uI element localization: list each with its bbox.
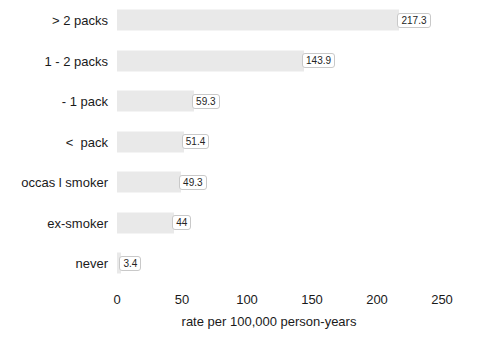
bar-track: 51.4 (117, 131, 480, 152)
bar-value-label: 3.4 (119, 256, 141, 271)
bar-row: < pack 51.4 (0, 122, 480, 163)
bar-value-label: 51.4 (182, 134, 209, 149)
bar-value-label: 44 (172, 215, 191, 230)
category-label: never (0, 256, 108, 271)
bar-row: occas l smoker 49.3 (0, 162, 480, 203)
x-axis-title-text: rate per 100,000 person-years (182, 314, 357, 329)
x-tick-label: 0 (113, 292, 120, 307)
bar-track: 217.3 (117, 10, 480, 31)
x-axis-title: rate per 100,000 person-years (0, 314, 480, 329)
bar-value-label: 217.3 (397, 13, 430, 28)
bar-value-label: 49.3 (179, 175, 206, 190)
category-label: > 2 packs (0, 13, 108, 28)
bar-row: > 2 packs 217.3 (0, 0, 480, 41)
category-label: - 1 pack (0, 94, 108, 109)
bar-value-label: 59.3 (192, 94, 219, 109)
category-label: occas l smoker (0, 175, 108, 190)
category-label: < pack (0, 134, 108, 149)
bar-track: 44 (117, 212, 480, 233)
plot-area: > 2 packs 217.3 1 - 2 packs 143.9 - 1 pa… (0, 0, 480, 290)
bar (117, 91, 194, 112)
x-tick-label: 150 (301, 292, 323, 307)
bar (117, 172, 181, 193)
bar-row: - 1 pack 59.3 (0, 81, 480, 122)
bar-chart: > 2 packs 217.3 1 - 2 packs 143.9 - 1 pa… (0, 0, 480, 342)
bar-track: 49.3 (117, 172, 480, 193)
bar-row: ex-smoker 44 (0, 203, 480, 244)
bar (117, 212, 174, 233)
bar (117, 131, 184, 152)
category-label: 1 - 2 packs (0, 53, 108, 68)
x-tick-label: 200 (366, 292, 388, 307)
bar (117, 10, 399, 31)
bar-track: 143.9 (117, 50, 480, 71)
bar (117, 50, 304, 71)
category-label: ex-smoker (0, 215, 108, 230)
bar-value-label: 143.9 (302, 53, 335, 68)
x-axis: 0 50 100 150 200 250 rate per 100,000 pe… (0, 290, 480, 342)
bar-row: never 3.4 (0, 243, 480, 284)
bar-track: 3.4 (117, 253, 480, 274)
x-tick-label: 250 (431, 292, 453, 307)
bar-track: 59.3 (117, 91, 480, 112)
x-tick-label: 50 (175, 292, 189, 307)
x-tick-label: 100 (236, 292, 258, 307)
bar-row: 1 - 2 packs 143.9 (0, 41, 480, 82)
